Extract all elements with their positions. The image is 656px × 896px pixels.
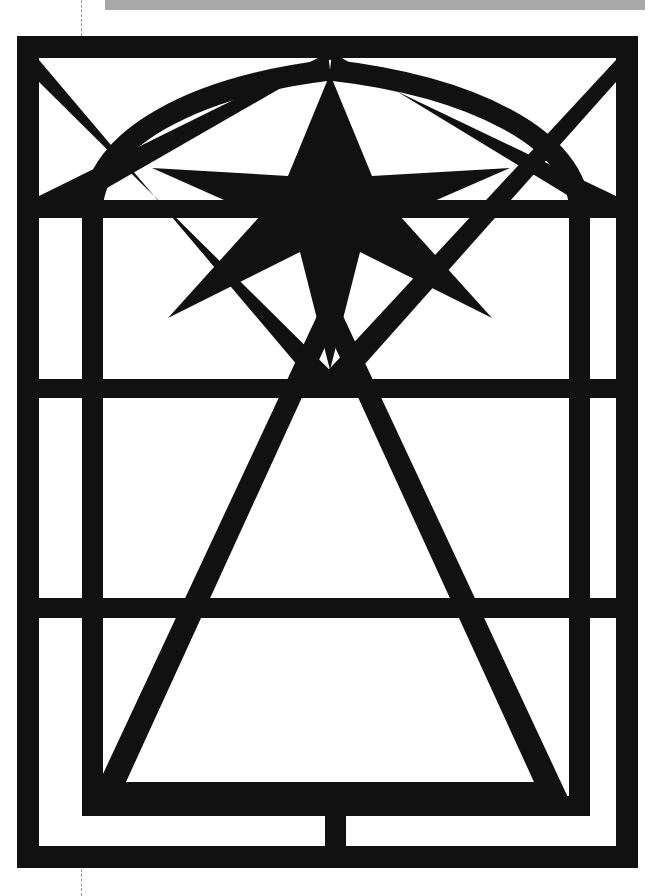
left-mullion — [82, 200, 103, 816]
stained-glass-window-artwork: Stained Glass Window Cartoon — [0, 0, 656, 896]
bottom-center-mullion — [325, 806, 346, 868]
transom-lower — [17, 598, 638, 618]
page-canvas: Stained Glass Window Cartoon — [0, 0, 656, 896]
transom-middle — [17, 379, 638, 398]
transom-upper — [17, 200, 638, 218]
right-mullion — [569, 200, 590, 816]
